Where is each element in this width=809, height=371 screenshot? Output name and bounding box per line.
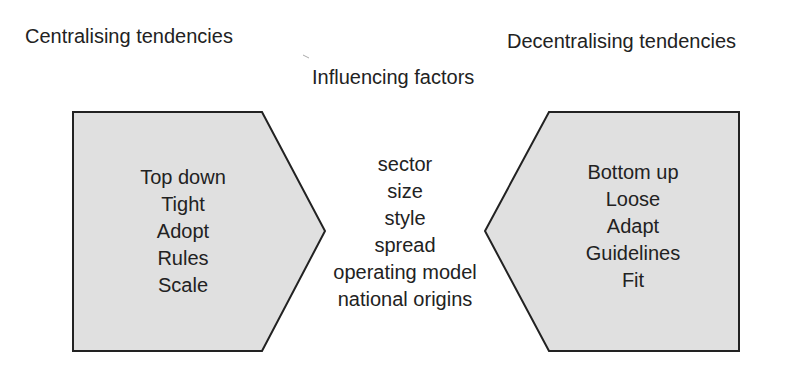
list-item: Loose	[553, 186, 713, 213]
list-item: Adapt	[553, 213, 713, 240]
list-item: sector	[325, 151, 485, 178]
list-item: style	[325, 205, 485, 232]
list-item: Scale	[103, 272, 263, 299]
stray-mark	[303, 55, 309, 58]
list-item: Top down	[103, 164, 263, 191]
list-item: Bottom up	[553, 159, 713, 186]
list-item: Rules	[103, 245, 263, 272]
decentralising-list: Bottom up Loose Adapt Guidelines Fit	[553, 159, 713, 294]
list-item: Tight	[103, 191, 263, 218]
factors-list: sector size style spread operating model…	[325, 151, 485, 313]
list-item: Fit	[553, 267, 713, 294]
list-item: national origins	[325, 286, 485, 313]
list-item: operating model	[325, 259, 485, 286]
list-item: Guidelines	[553, 240, 713, 267]
list-item: size	[325, 178, 485, 205]
list-item: spread	[325, 232, 485, 259]
centralising-list: Top down Tight Adopt Rules Scale	[103, 164, 263, 299]
list-item: Adopt	[103, 218, 263, 245]
